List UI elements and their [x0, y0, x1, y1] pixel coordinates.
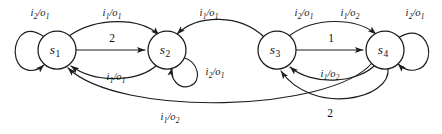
state-machine-diagram: s1 s2 s3 s4 i2/o1i1/o12i1/o1i2/o1i1/o1i2… — [0, 0, 442, 134]
edge-label-t13: i1/o2 — [161, 111, 180, 124]
edge-label-t10: i1/o2 — [321, 68, 340, 81]
edges-layer — [15, 19, 429, 102]
state-node-s1[interactable]: s1 — [38, 31, 76, 69]
edge-label-t8: i1/o2 — [341, 7, 360, 20]
edge-label-t12: i2/o1 — [406, 7, 425, 20]
state-node-s4[interactable]: s4 — [366, 31, 404, 69]
edge-label-t9: 1 — [328, 32, 334, 44]
edge-label-t6: i1/o1 — [200, 7, 219, 20]
edge-label-t7: i2/o1 — [295, 7, 314, 20]
fsm-canvas: s1 s2 s3 s4 i2/o1i1/o12i1/o1i2/o1i1/o1i2… — [0, 0, 442, 134]
edge-s3-to-s2-arc — [177, 19, 264, 37]
state-node-s3[interactable]: s3 — [258, 31, 296, 69]
edge-label-t5: i2/o1 — [206, 66, 225, 79]
edge-labels-layer: i2/o1i1/o12i1/o1i2/o1i1/o1i2/o1i1/o21i1/… — [31, 7, 425, 124]
edge-label-t1: i2/o1 — [31, 7, 50, 20]
edge-label-t11: 2 — [327, 107, 333, 119]
edge-label-t2: i1/o1 — [103, 7, 122, 20]
edge-label-t4: i1/o1 — [107, 71, 126, 84]
state-node-s2[interactable]: s2 — [148, 31, 186, 69]
edge-label-t3: 2 — [109, 32, 115, 44]
